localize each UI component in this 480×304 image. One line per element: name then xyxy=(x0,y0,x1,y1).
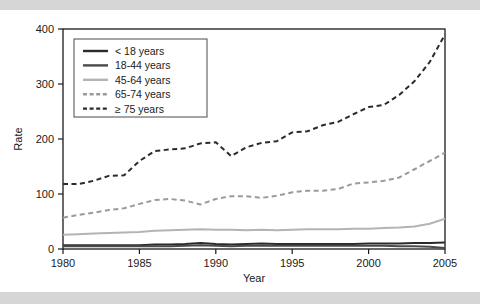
y-axis-title: Rate xyxy=(12,127,24,150)
x-tick-label: 2005 xyxy=(433,257,457,269)
line-chart: 0100200300400 198019851990199520002005 R… xyxy=(0,10,480,292)
x-tick-label: 2000 xyxy=(356,257,380,269)
y-tick-label: 0 xyxy=(48,243,54,255)
figure-page: 0100200300400 198019851990199520002005 R… xyxy=(0,0,480,304)
legend: < 18 years18-44 years45-64 years65-74 ye… xyxy=(74,39,207,117)
legend-item-label: ≥ 75 years xyxy=(115,103,164,115)
top-gray-band xyxy=(0,0,480,10)
x-axis-title: Year xyxy=(243,272,266,284)
x-tick-label: 1980 xyxy=(51,257,75,269)
y-tick-label: 300 xyxy=(36,78,54,90)
bottom-gray-band xyxy=(0,292,480,304)
chart-figure: 0100200300400 198019851990199520002005 R… xyxy=(0,10,480,292)
legend-item-label: 18-44 years xyxy=(115,59,170,71)
legend-item-label: < 18 years xyxy=(115,45,164,57)
legend-item-label: 65-74 years xyxy=(115,88,170,100)
y-tick-label: 200 xyxy=(36,133,54,145)
y-tick-label: 100 xyxy=(36,188,54,200)
x-tick-label: 1995 xyxy=(280,257,304,269)
chart-background xyxy=(0,10,480,292)
y-tick-label: 400 xyxy=(36,23,54,35)
x-tick-label: 1990 xyxy=(204,257,228,269)
x-tick-label: 1985 xyxy=(127,257,151,269)
legend-item-label: 45-64 years xyxy=(115,74,170,86)
